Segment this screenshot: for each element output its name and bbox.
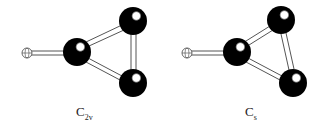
bond-h-center [190,51,226,55]
symmetry-letter: C [76,104,85,119]
bond-top-bottom [281,33,294,70]
molecule-cs [182,6,307,97]
bond-h-center [30,51,66,55]
symmetry-subscript: s [254,113,257,122]
bond-center-bottom [86,58,122,80]
atom-center [63,38,91,66]
molecules-svg [0,0,320,124]
symmetry-label-c2v: C2v [76,104,93,122]
bond-top-bottom [131,34,136,70]
bond-center-bottom [246,58,282,80]
atom-top [119,7,147,35]
atom-center [223,38,251,66]
symmetry-subscript: 2v [85,113,93,122]
symmetry-letter: C [245,104,254,119]
molecule-c2v [22,7,147,97]
atom-bottom [279,69,307,97]
hydrogen-atom [22,48,32,58]
diagram-canvas: C2v Cs [0,0,320,124]
atom-bottom [119,69,147,97]
bond-center-top [86,25,124,46]
hydrogen-atom [182,48,192,58]
bond-center-top [246,26,273,45]
symmetry-label-cs: Cs [245,104,257,122]
atom-top [267,6,295,34]
